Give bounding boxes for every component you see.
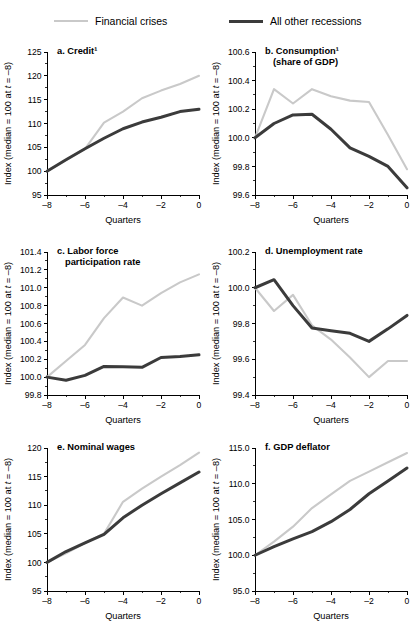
x-tick-label: –2 [364, 596, 374, 606]
x-tick-label: 0 [405, 400, 410, 410]
panel-a-credit: 95100105110115120125–8–6–4–20a. Credit¹Q… [0, 40, 208, 239]
chart-c: 99.8100.0100.2100.4100.6100.8101.0101.21… [0, 240, 208, 439]
panel-d-unemployment-rate: 99.499.699.8100.0100.2–8–6–4–20d. Unempl… [208, 240, 416, 439]
x-tick-label: –2 [364, 200, 374, 210]
y-tick-label: 101.0 [20, 283, 42, 293]
y-tick-label: 99.6 [233, 354, 250, 364]
series-line-all-other-recessions [255, 468, 407, 555]
series-line-all-other-recessions [47, 472, 199, 562]
y-tick-label: 100.6 [20, 319, 42, 329]
panel-title: participation rate [65, 257, 140, 267]
x-tick-label: –4 [118, 400, 128, 410]
x-tick-label: 0 [405, 200, 410, 210]
y-tick-label: 99.8 [233, 319, 250, 329]
y-tick-label: 99.6 [233, 190, 250, 200]
y-tick-label: 95.0 [233, 586, 250, 596]
panel-title: b. Consumption¹ [265, 46, 339, 56]
x-tick-label: –2 [364, 400, 374, 410]
x-tick-label: –8 [42, 200, 52, 210]
y-tick-label: 100.0 [228, 550, 250, 560]
y-tick-label: 99.4 [233, 390, 250, 400]
y-tick-label: 100.0 [20, 372, 42, 382]
panels-container: 95100105110115120125–8–6–4–20a. Credit¹Q… [0, 40, 416, 639]
y-tick-label: 110 [28, 119, 42, 129]
y-tick-label: 105 [27, 529, 42, 539]
series-line-financial-crises [47, 453, 199, 563]
legend-swatch-financial-crises-icon [54, 20, 88, 22]
axis-lines [47, 252, 199, 395]
x-axis-title: Quarters [105, 611, 141, 621]
x-tick-label: –4 [326, 400, 336, 410]
panel-title: c. Labor force [57, 246, 118, 256]
series-line-all-other-recessions [255, 114, 407, 188]
series-line-all-other-recessions [255, 280, 407, 342]
panel-b-consumption: 99.699.8100.0100.2100.4100.6–8–6–4–20b. … [208, 40, 416, 239]
y-axis-title: Index (median = 100 at t = –8) [211, 62, 221, 185]
x-tick-label: 0 [197, 200, 202, 210]
y-tick-label: 100.2 [228, 247, 250, 257]
chart-b: 99.699.8100.0100.2100.4100.6–8–6–4–20b. … [208, 40, 416, 239]
x-tick-label: –6 [288, 400, 298, 410]
y-tick-label: 101.4 [20, 247, 42, 257]
x-tick-label: 0 [405, 596, 410, 606]
axis-lines [255, 448, 407, 591]
x-tick-label: –8 [250, 400, 260, 410]
x-tick-label: 0 [197, 400, 202, 410]
series-line-financial-crises [255, 453, 407, 555]
y-tick-label: 100.0 [228, 283, 250, 293]
y-axis-title: Index (median = 100 at t = –8) [211, 458, 221, 581]
x-tick-label: –2 [156, 200, 166, 210]
legend-label-all-other-recessions: All other recessions [270, 15, 362, 27]
y-tick-label: 100 [27, 558, 42, 568]
y-tick-label: 110 [28, 500, 42, 510]
x-axis-title: Quarters [313, 415, 349, 425]
x-tick-label: 0 [197, 596, 202, 606]
legend: Financial crises All other recessions [0, 0, 416, 40]
panel-title: f. GDP deflator [265, 442, 330, 452]
legend-item-all-other-recessions: All other recessions [229, 15, 362, 27]
y-tick-label: 120 [27, 443, 42, 453]
y-tick-label: 100.4 [228, 76, 250, 86]
panel-title: a. Credit¹ [57, 46, 97, 56]
x-tick-label: –4 [118, 200, 128, 210]
y-axis-title: Index (median = 100 at t = –8) [3, 458, 13, 581]
y-axis-title: Index (median = 100 at t = –8) [211, 262, 221, 385]
y-tick-label: 120 [27, 71, 42, 81]
y-tick-label: 100.8 [20, 301, 42, 311]
y-tick-label: 105 [27, 142, 42, 152]
panel-e-nominal-wages: 95100105110115120–8–6–4–20e. Nominal wag… [0, 436, 208, 635]
x-tick-label: –4 [118, 596, 128, 606]
legend-swatch-all-other-recessions-icon [229, 20, 263, 23]
y-tick-label: 95 [32, 190, 42, 200]
y-tick-label: 125 [27, 47, 42, 57]
x-tick-label: –6 [80, 400, 90, 410]
chart-e: 95100105110115120–8–6–4–20e. Nominal wag… [0, 436, 208, 635]
x-axis-title: Quarters [313, 215, 349, 225]
panel-title: (share of GDP) [273, 57, 338, 67]
x-tick-label: –4 [326, 200, 336, 210]
y-tick-label: 110.0 [229, 479, 250, 489]
panel-f-gdp-deflator: 95.0100.0105.0110.0115.0–8–6–4–20f. GDP … [208, 436, 416, 635]
series-line-all-other-recessions [47, 109, 199, 171]
y-tick-label: 115.0 [229, 443, 250, 453]
y-tick-label: 95 [32, 586, 42, 596]
y-axis-title: Index (median = 100 at t = –8) [3, 62, 13, 185]
legend-label-financial-crises: Financial crises [95, 15, 167, 27]
x-axis-title: Quarters [105, 215, 141, 225]
y-tick-label: 99.8 [233, 162, 250, 172]
x-tick-label: –6 [80, 200, 90, 210]
y-tick-label: 100.0 [228, 133, 250, 143]
x-axis-title: Quarters [105, 415, 141, 425]
panel-title: e. Nominal wages [57, 442, 135, 452]
axis-lines [255, 252, 407, 395]
figure-panel-grid: Financial crises All other recessions 95… [0, 0, 416, 639]
y-tick-label: 101.2 [20, 265, 42, 275]
chart-a: 95100105110115120125–8–6–4–20a. Credit¹Q… [0, 40, 208, 239]
y-tick-label: 115 [28, 95, 42, 105]
panel-title: d. Unemployment rate [265, 246, 363, 256]
y-tick-label: 100.2 [20, 354, 42, 364]
chart-d: 99.499.699.8100.0100.2–8–6–4–20d. Unempl… [208, 240, 416, 439]
y-axis-title: Index (median = 100 at t = –8) [3, 262, 13, 385]
x-tick-label: –6 [288, 200, 298, 210]
axis-lines [47, 52, 199, 195]
